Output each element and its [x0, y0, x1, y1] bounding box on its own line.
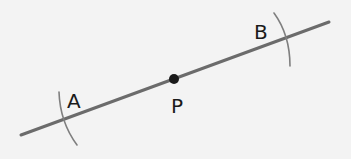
label-b: B	[254, 20, 268, 44]
point-p	[169, 74, 179, 84]
construction-diagram: A B P	[0, 0, 351, 159]
diagram-canvas: A B P	[0, 0, 351, 159]
label-a: A	[67, 89, 81, 113]
label-p: P	[171, 94, 183, 118]
